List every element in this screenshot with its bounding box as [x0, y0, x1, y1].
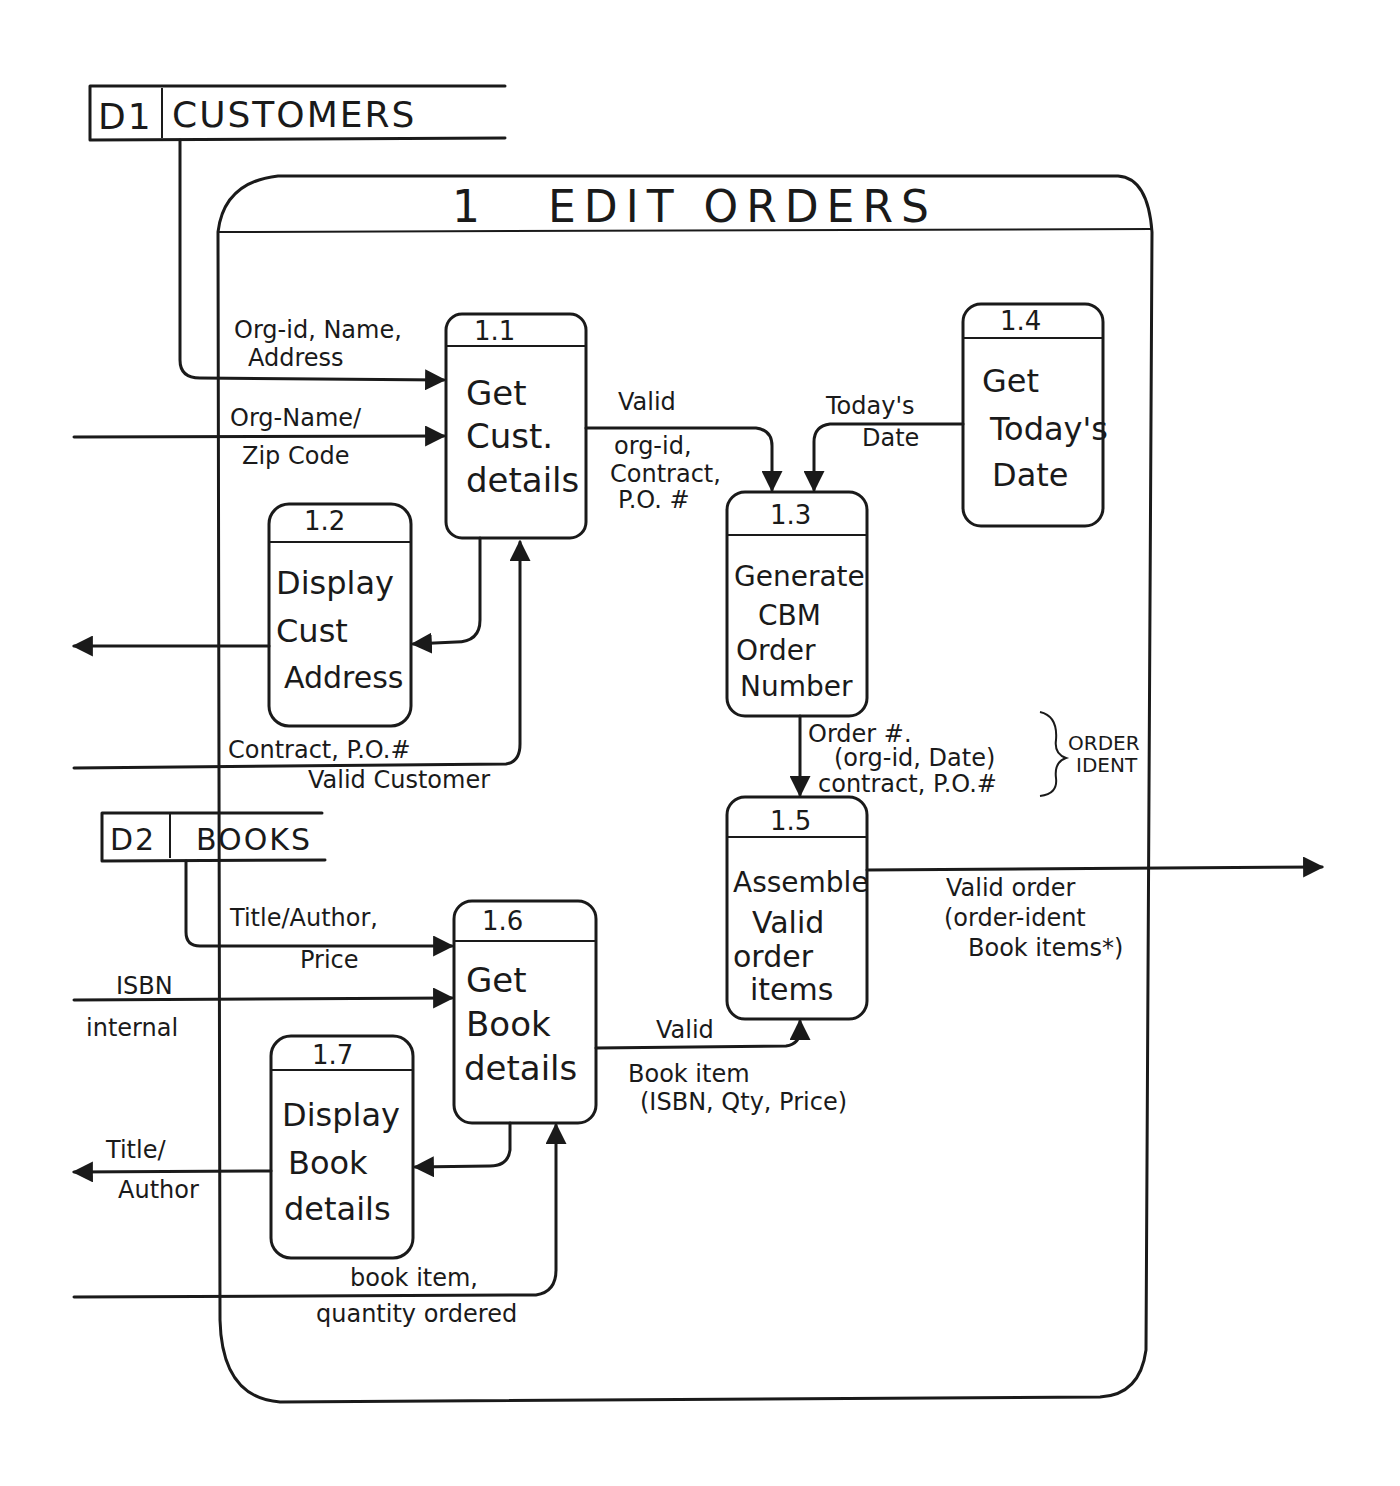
flow-label: Title/ [105, 1136, 166, 1164]
process-1-2-display-cust-address[interactable]: 1.2 Display Cust Address [269, 504, 411, 726]
process-label-line: Generate [734, 560, 865, 593]
flow-label: (org-id, Date) [834, 744, 995, 772]
flow-1-1-to-1-3[interactable]: Valid org-id, Contract, P.O. # [586, 388, 772, 514]
flow-label: ISBN [116, 972, 173, 1000]
process-id: 1.1 [474, 316, 515, 346]
flow-label: Org-id, Name, [234, 316, 402, 344]
parent-process-title: EDIT ORDERS [548, 181, 937, 232]
process-label-line: items [750, 972, 833, 1007]
flow-label: Author [118, 1176, 199, 1204]
process-1-7-display-book-details[interactable]: 1.7 Display Book details [271, 1036, 413, 1258]
process-1-5-assemble-valid-order-items[interactable]: 1.5 Assemble Valid order items [727, 797, 869, 1019]
process-label-line: Cust [276, 612, 348, 650]
brace-icon [1040, 712, 1066, 796]
process-label-line: Today's [989, 410, 1108, 448]
flow-label: Contract, P.O.# [228, 736, 411, 764]
data-store-name: CUSTOMERS [172, 94, 416, 135]
flow-1-6-to-1-5[interactable]: Valid Book item (ISBN, Qty, Price) [596, 1016, 847, 1116]
flow-label: Valid Customer [308, 766, 490, 794]
process-label-line: Display [282, 1096, 400, 1134]
process-label-line: Book [288, 1144, 368, 1182]
flow-isbn-to-1-6[interactable]: ISBN internal [74, 972, 452, 1042]
parent-process-id: 1 [452, 181, 488, 232]
process-label-line: Valid [752, 905, 824, 940]
process-label-line: Book [466, 1004, 551, 1044]
process-label-line: details [464, 1048, 577, 1088]
process-id: 1.4 [1000, 306, 1041, 336]
process-label-line: Order [736, 634, 816, 667]
process-label-line: details [466, 460, 579, 500]
process-label-line: Get [982, 362, 1039, 400]
data-store-d2-books[interactable]: D2 BOOKS [102, 813, 325, 861]
process-1-6-get-book-details[interactable]: 1.6 Get Book details [454, 901, 596, 1123]
process-label-line: Cust. [466, 416, 553, 456]
flow-annotation: IDENT [1076, 753, 1138, 777]
flow-label: Address [248, 344, 344, 372]
process-label-line: Number [740, 670, 853, 703]
flow-label: Org-Name/ [230, 404, 362, 432]
flow-label: Valid [656, 1016, 714, 1044]
process-label-line: Get [466, 373, 527, 413]
flow-label: P.O. # [618, 486, 690, 514]
process-id: 1.5 [770, 806, 811, 836]
process-id: 1.6 [482, 906, 523, 936]
flow-label: internal [86, 1014, 178, 1042]
process-1-4-get-todays-date[interactable]: 1.4 Get Today's Date [963, 304, 1108, 526]
process-label-line: Display [276, 564, 394, 602]
process-label-line: Address [284, 660, 403, 695]
data-store-name: BOOKS [196, 822, 312, 857]
dfd-canvas: 1 EDIT ORDERS D1 CUSTOMERS D2 BOOKS 1.1 … [0, 0, 1400, 1486]
process-1-1-get-cust-details[interactable]: 1.1 Get Cust. details [446, 314, 586, 538]
process-id: 1.2 [304, 506, 345, 536]
data-store-id: D1 [98, 96, 153, 137]
flow-org-name-zip-to-1-1[interactable]: Org-Name/ Zip Code [74, 404, 444, 470]
flow-label: (order-ident [944, 904, 1086, 932]
flow-label: Date [862, 424, 919, 452]
process-label-line: details [284, 1190, 391, 1228]
flow-label: Contract, [610, 460, 721, 488]
flow-label: Book item [628, 1060, 750, 1088]
flow-label: Title/Author, [229, 904, 378, 932]
process-1-3-generate-cbm-order-number[interactable]: 1.3 Generate CBM Order Number [727, 492, 867, 716]
flow-label: Today's [825, 392, 915, 420]
flow-1-7-to-external-title-author[interactable]: Title/ Author [74, 1136, 271, 1204]
process-id: 1.3 [770, 500, 811, 530]
flow-1-4-to-1-3[interactable]: Today's Date [814, 392, 963, 490]
flow-1-6-to-1-7[interactable] [415, 1123, 510, 1167]
process-label-line: CBM [758, 599, 821, 632]
process-label-line: order [733, 939, 814, 974]
flow-label: Price [300, 946, 359, 974]
flow-label: Zip Code [242, 442, 349, 470]
flow-1-3-to-1-5[interactable]: Order #. (org-id, Date) contract, P.O.# … [800, 712, 1140, 798]
flow-label: Valid [618, 388, 676, 416]
flow-label: org-id, [614, 432, 692, 460]
flow-label: (ISBN, Qty, Price) [640, 1088, 847, 1116]
process-label-line: Get [466, 960, 527, 1000]
flow-label: quantity ordered [316, 1300, 517, 1328]
process-id: 1.7 [312, 1040, 353, 1070]
flow-d2-to-1-6[interactable]: Title/Author, Price [186, 861, 452, 974]
flow-1-5-to-external-valid-order[interactable]: Valid order (order-ident Book items*) [867, 867, 1322, 962]
flow-label: Valid order [946, 874, 1076, 902]
process-label-line: Assemble [733, 866, 869, 899]
flow-1-1-to-1-2[interactable] [413, 538, 480, 644]
flow-annotation: ORDER [1068, 731, 1140, 755]
flow-label: contract, P.O.# [818, 770, 997, 798]
process-label-line: Date [992, 456, 1068, 494]
data-store-id: D2 [110, 822, 156, 857]
flow-label: book item, [350, 1264, 478, 1292]
flow-label: Book items*) [968, 934, 1123, 962]
data-store-d1-customers[interactable]: D1 CUSTOMERS [90, 86, 505, 140]
